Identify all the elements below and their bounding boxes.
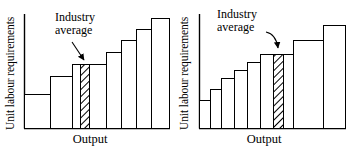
bar-firm-5 — [248, 63, 261, 129]
bar-industry-average — [274, 55, 284, 129]
bar-firm-9 — [324, 26, 346, 129]
bar-firm-7 — [284, 55, 294, 129]
figure-container: Unit labour requirements Output Industry… — [0, 0, 349, 154]
bar-firm-7 — [137, 30, 152, 129]
chart-svg-left — [0, 0, 174, 154]
bar-firm-6 — [122, 41, 137, 129]
bar-firm-2 — [211, 90, 222, 129]
bar-firm-6 — [261, 55, 274, 129]
bar-firm-4 — [90, 65, 107, 129]
annotation-arrow-right — [266, 32, 278, 48]
bar-industry-average — [81, 65, 90, 129]
chart-panel-left: Unit labour requirements Output Industry… — [0, 0, 174, 154]
chart-svg-right — [174, 0, 349, 154]
bar-firm-5 — [107, 53, 122, 129]
bar-firm-8 — [294, 41, 324, 129]
bar-firm-8 — [152, 19, 170, 129]
bar-firm-3 — [73, 65, 81, 129]
bar-firm-1 — [200, 101, 211, 129]
bar-firm-2 — [51, 77, 73, 129]
annotation-arrow-left — [72, 42, 84, 60]
chart-panel-right: Unit labour requirements Output Industry… — [174, 0, 349, 154]
bar-firm-4 — [235, 71, 248, 129]
bar-firm-3 — [222, 79, 235, 129]
bar-firm-1 — [25, 95, 51, 129]
